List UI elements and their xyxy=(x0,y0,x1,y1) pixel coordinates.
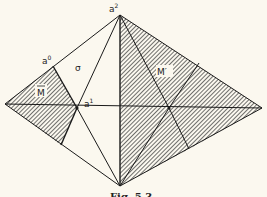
edge-a1-bottom xyxy=(77,108,120,186)
figure-caption: Fig. 5.3 xyxy=(110,191,152,197)
vertex-center xyxy=(167,106,170,109)
vertex-a1 xyxy=(75,106,78,109)
label-sigma: σ xyxy=(75,63,81,73)
diagram: a2 a0 a1 σ M M′ Fig. 5.3 xyxy=(0,0,267,197)
label-a2: a2 xyxy=(109,2,119,14)
label-a0: a0 xyxy=(42,54,52,66)
label-m-prime: M′ xyxy=(157,67,167,77)
region-m-prime xyxy=(120,15,262,186)
label-m-bar: M xyxy=(37,88,45,98)
label-a1: a1 xyxy=(84,97,94,109)
edge-a1-a2 xyxy=(77,15,120,108)
